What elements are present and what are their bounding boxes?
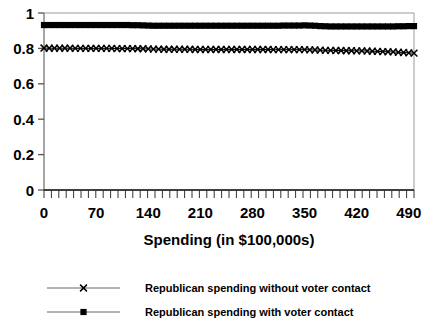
chart-legend: Republican spending without voter contac… (47, 282, 371, 318)
legend-item[interactable]: Republican spending with voter contact (47, 306, 354, 318)
x-tick-label: 350 (292, 204, 317, 221)
x-tick-label: 490 (396, 204, 421, 221)
chart-container: 00.20.40.60.81 070140210280350420490 Spe… (0, 0, 429, 335)
y-tick-label: 0.6 (13, 75, 34, 92)
y-tick-label: 1 (26, 5, 34, 22)
x-tick-label: 0 (40, 204, 48, 221)
y-tick-label: 0.2 (13, 146, 34, 163)
x-tick-label: 140 (136, 204, 161, 221)
data-point-square (80, 309, 86, 315)
y-axis-tick-labels: 00.20.40.60.81 (13, 5, 35, 199)
x-tick-label: 280 (240, 204, 265, 221)
legend-label: Republican spending with voter contact (145, 306, 354, 318)
y-tick-label: 0 (26, 182, 34, 199)
data-series (41, 22, 417, 30)
x-tick-label: 70 (88, 204, 105, 221)
y-tick-label: 0.4 (13, 111, 35, 128)
y-axis-ticks (38, 13, 44, 190)
data-series (41, 45, 418, 57)
data-point-square (411, 23, 417, 29)
x-axis-tick-labels: 070140210280350420490 (40, 204, 421, 221)
x-tick-label: 210 (188, 204, 213, 221)
x-axis-minor-ticks (44, 190, 414, 198)
data-series-group (41, 22, 418, 57)
x-axis-title: Spending (in $100,000s) (144, 231, 315, 248)
y-tick-label: 0.8 (13, 40, 34, 57)
legend-label: Republican spending without voter contac… (145, 282, 371, 294)
chart-svg: 00.20.40.60.81 070140210280350420490 Spe… (0, 0, 429, 335)
plot-frame (44, 13, 414, 190)
legend-item[interactable]: Republican spending without voter contac… (47, 282, 371, 294)
x-tick-label: 420 (344, 204, 369, 221)
